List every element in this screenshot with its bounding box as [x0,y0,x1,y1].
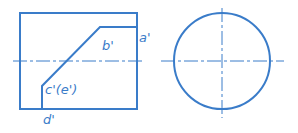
front-view [13,13,143,109]
label-ce: c'(e') [45,82,77,97]
side-view [161,8,284,118]
label-b: b' [102,38,114,53]
projection-diagram: b' a' c'(e') d' [0,0,298,133]
label-a: a' [139,30,151,45]
label-d: d' [43,112,55,127]
